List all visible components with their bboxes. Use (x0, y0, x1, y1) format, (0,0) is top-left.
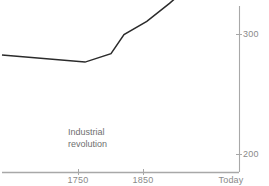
x-tick-label-1850: 1850 (133, 175, 154, 185)
annotation-leader-line (118, 134, 136, 143)
co2-line-chart: 300 200 1750 1850 Today Industrial revol… (0, 0, 269, 186)
chart-plot-area (0, 0, 269, 186)
annotation-line-2: revolution (68, 138, 107, 150)
annotation-line-1: Industrial (68, 126, 107, 138)
x-tick-label-today: Today (218, 175, 243, 185)
x-tick-label-1750: 1750 (68, 175, 89, 185)
y-tick-label-300: 300 (243, 29, 259, 39)
y-tick-label-200: 200 (243, 149, 259, 159)
co2-data-line (2, 0, 240, 62)
annotation-industrial-revolution: Industrial revolution (68, 126, 107, 150)
